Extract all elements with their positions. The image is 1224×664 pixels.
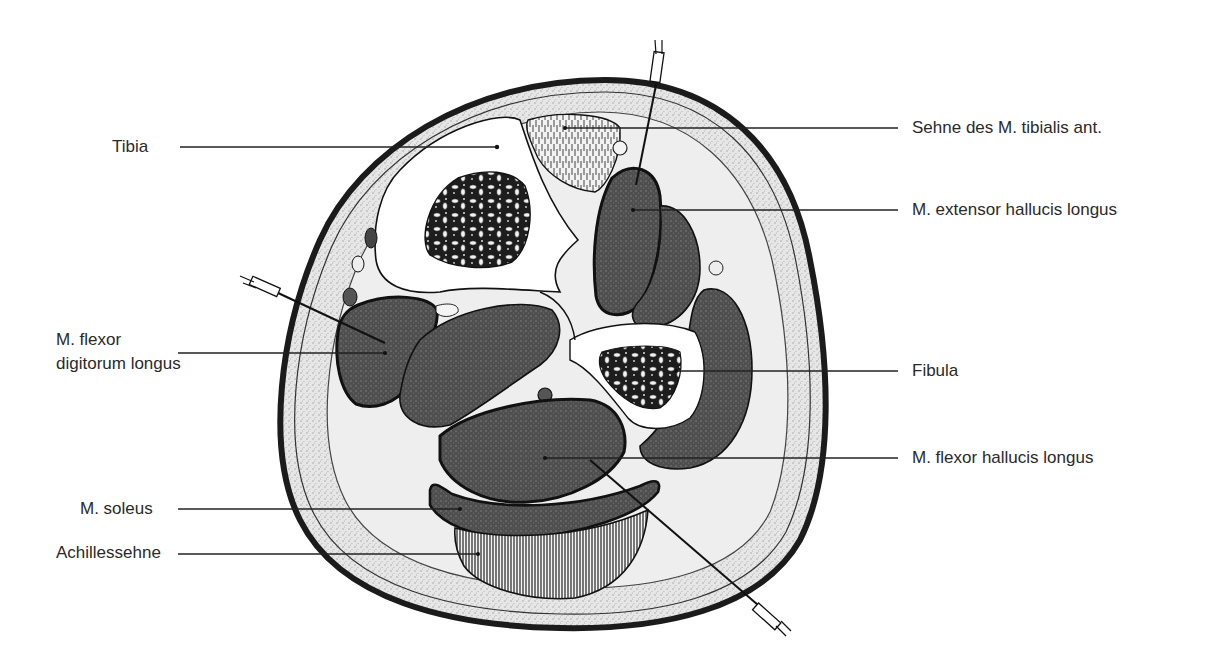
label-soleus: M. soleus [80,499,153,519]
leg-cross-section-diagram [0,0,1224,664]
label-fibula: Fibula [912,361,958,381]
vessel-anterior [613,141,627,155]
vessel-tibialis-posterior [436,304,458,317]
needle-hub-medial [249,276,280,296]
vessel-saphenous-3 [343,288,357,306]
vessel-saphenous-2 [352,256,364,272]
vessel-saphenous-1 [365,228,377,248]
vessel-lateral [709,261,723,275]
label-extensor-hallucis-longus: M. extensor hallucis longus [912,200,1117,220]
label-flexor-digitorum-line2: digitorum longus [56,354,181,374]
label-tibia: Tibia [112,137,148,157]
label-achillessehne: Achillessehne [56,543,161,563]
label-flexor-hallucis-longus: M. flexor hallucis longus [912,448,1093,468]
needle-hub-anterior [650,51,664,82]
label-flexor-digitorum-line1: M. flexor [56,330,121,350]
label-tibialis-anterior-tendon: Sehne des M. tibialis ant. [912,118,1102,138]
